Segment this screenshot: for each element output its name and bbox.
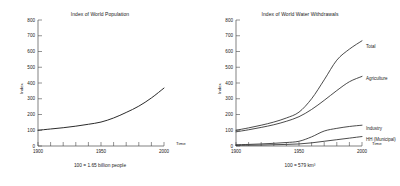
- chart-panel-water: Index of World Water Withdrawals Index: [200, 0, 400, 186]
- y-tick-400: 400: [217, 81, 233, 86]
- plot-area-water: [236, 20, 362, 146]
- chart-panel-population: Index of World Population Index: [0, 0, 200, 186]
- series-label-industry: Industry: [366, 126, 382, 131]
- series-line-world-population: [38, 88, 164, 130]
- series-line-agriculture: [236, 76, 362, 131]
- x-ticks-population: [38, 142, 164, 146]
- population-plot-svg: [38, 20, 164, 146]
- series-line-industry: [236, 125, 362, 145]
- y-tick-500: 500: [19, 65, 35, 70]
- y-tick-200: 200: [217, 112, 233, 117]
- series-label-total: Total: [366, 44, 376, 49]
- axes-population: [38, 20, 164, 146]
- caption-population: 100 = 1.65 billion people: [0, 163, 200, 168]
- x-axis-label-population: Time: [176, 141, 186, 146]
- y-tick-400: 400: [19, 81, 35, 86]
- series-label-hh-municipal: HH (Municipal): [366, 137, 396, 142]
- y-tick-800: 800: [19, 18, 35, 23]
- x-tick-2000: 2000: [350, 149, 374, 154]
- y-tick-0: 0: [19, 144, 35, 149]
- y-tick-300: 300: [217, 96, 233, 101]
- y-tick-500: 500: [217, 65, 233, 70]
- x-tick-1950: 1950: [287, 149, 311, 154]
- y-tick-100: 100: [217, 128, 233, 133]
- y-tick-0: 0: [217, 144, 233, 149]
- y-ticks-water: [236, 20, 240, 146]
- chart-title-water: Index of World Water Withdrawals: [200, 11, 400, 17]
- y-tick-700: 700: [217, 33, 233, 38]
- plot-area-population: [38, 20, 164, 146]
- y-tick-200: 200: [19, 112, 35, 117]
- figure-canvas: Index of World Population Index: [0, 0, 400, 186]
- y-ticks-population: [38, 20, 42, 146]
- y-tick-300: 300: [19, 96, 35, 101]
- y-tick-100: 100: [19, 128, 35, 133]
- caption-water: 100 = 579 km³: [200, 163, 400, 168]
- y-tick-600: 600: [19, 49, 35, 54]
- water-plot-svg: [236, 20, 362, 146]
- x-tick-1900: 1900: [26, 149, 50, 154]
- x-tick-1900: 1900: [224, 149, 248, 154]
- chart-title-population: Index of World Population: [0, 11, 200, 17]
- y-tick-600: 600: [217, 49, 233, 54]
- x-tick-2000: 2000: [152, 149, 176, 154]
- series-label-agriculture: Agriculture: [366, 76, 388, 81]
- x-tick-1950: 1950: [89, 149, 113, 154]
- y-tick-800: 800: [217, 18, 233, 23]
- y-tick-700: 700: [19, 33, 35, 38]
